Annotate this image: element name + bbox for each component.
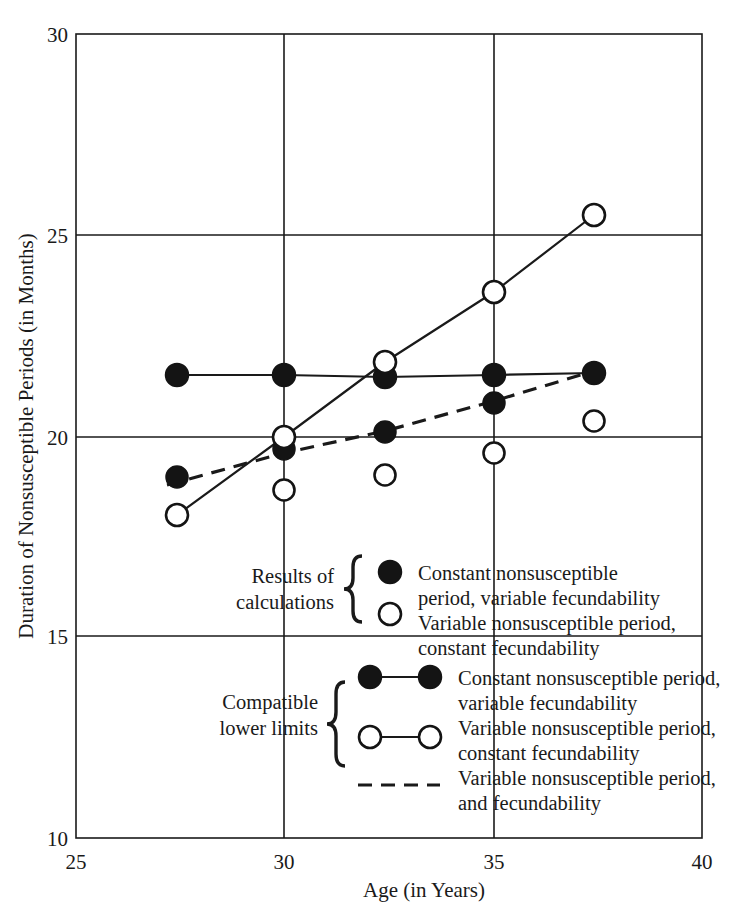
legend-group-results-label-line2: calculations [236, 591, 334, 613]
markers-results-filled [166, 392, 505, 488]
x-tick-35: 35 [484, 850, 505, 874]
data-point-filled [483, 392, 505, 414]
data-point-open [274, 480, 295, 501]
legend-entry-results-2-line2: constant fecundability [418, 637, 600, 660]
data-point-filled [166, 466, 188, 488]
legend-group-results-label-line1: Results of [251, 565, 334, 587]
y-tick-labels: 30 25 20 15 10 [47, 23, 68, 851]
legend-entry-limits-2-line2: constant fecundability [458, 742, 640, 765]
x-axis-title: Age (in Years) [363, 878, 485, 902]
data-point-open [483, 281, 505, 303]
data-point-open [484, 443, 505, 464]
legend-entry-limits-3-line2: and fecundability [458, 792, 602, 815]
legend-entry-results-1-line1: Constant nonsusceptible [418, 562, 618, 585]
legend-marker-open-circle [419, 726, 441, 748]
data-point-filled [483, 364, 506, 387]
y-tick-20: 20 [47, 426, 68, 450]
data-point-open [583, 204, 605, 226]
legend-marker-open-circle [359, 726, 381, 748]
data-point-filled [583, 362, 606, 385]
y-axis-title: Duration of Nonsusceptible Periods (in M… [14, 233, 38, 638]
legend-group-limits-label-line2: lower limits [219, 717, 318, 739]
legend-marker-filled-circle [359, 666, 382, 689]
legend-entry-limits-3-line1: Variable nonsusceptible period, [458, 767, 716, 790]
legend-entry-limits-2-line1: Variable nonsusceptible period, [458, 717, 716, 740]
y-tick-10: 10 [47, 827, 68, 851]
legend-marker-filled-circle [379, 561, 402, 584]
legend-marker-filled-circle [419, 666, 442, 689]
figure-container: 30 25 20 15 10 25 30 35 40 Age (in Years… [0, 0, 735, 910]
x-tick-25: 25 [66, 850, 87, 874]
markers-results-open [274, 411, 605, 501]
legend-entry-results-1-line2: period, variable fecundability [418, 587, 661, 610]
y-tick-25: 25 [47, 224, 68, 248]
legend-marker-open-circle [379, 603, 401, 625]
data-point-open [273, 426, 295, 448]
data-point-open [166, 504, 188, 526]
data-point-open [374, 351, 396, 373]
y-tick-15: 15 [47, 625, 68, 649]
x-tick-labels: 25 30 35 40 [66, 850, 713, 874]
y-tick-30: 30 [47, 23, 68, 47]
x-tick-40: 40 [692, 850, 713, 874]
legend-brace-results [344, 556, 362, 622]
legend-group-limits-label-line1: Compatible [222, 691, 318, 714]
legend-brace-limits [327, 682, 345, 766]
data-point-open [375, 465, 396, 486]
x-tick-30: 30 [274, 850, 295, 874]
data-point-filled [374, 421, 396, 443]
data-point-filled [166, 364, 189, 387]
legend-entry-results-2-line1: Variable nonsusceptible period, [418, 612, 676, 635]
data-point-filled [273, 364, 296, 387]
legend-entry-limits-1-line2: variable fecundability [458, 692, 638, 715]
legend-group-limits: Compatible lower limits Constant nonsusc… [219, 666, 720, 816]
legend-entry-limits-1-line1: Constant nonsusceptible period, [458, 667, 720, 690]
chart-canvas: 30 25 20 15 10 25 30 35 40 Age (in Years… [0, 0, 735, 910]
data-point-open [584, 411, 605, 432]
legend-group-results: Results of calculations Constant nonsusc… [236, 556, 676, 660]
